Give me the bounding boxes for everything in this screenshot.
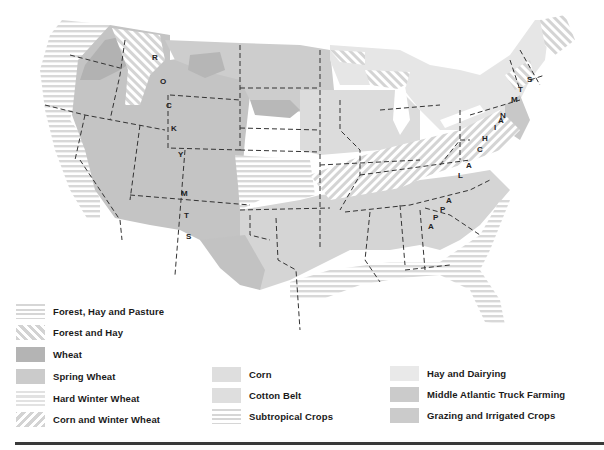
legend-label: Corn and Winter Wheat [53,414,160,425]
svg-text:A: A [466,161,472,170]
solid-light-swatch-icon [212,367,241,382]
legend-item-spring-wheat: Spring Wheat [16,368,115,384]
diagonal-lines-swatch-icon [16,412,45,427]
horizontal-lines-swatch-icon [16,391,45,406]
legend-item-grazing-irrigated: Grazing and Irrigated Crops [390,407,555,423]
svg-text:K: K [171,124,177,133]
legend-label: Wheat [53,349,82,360]
svg-text:I: I [494,123,496,132]
svg-text:C: C [166,101,172,110]
legend-label: Hay and Dairying [427,368,506,379]
svg-text:P: P [433,213,439,222]
legend-item-hard-winter-wheat: Hard Winter Wheat [16,390,140,406]
legend-label: Hard Winter Wheat [53,393,140,404]
legend-item-truck-farming: Middle Atlantic Truck Farming [390,386,565,402]
region-wheat-dakota [250,100,300,118]
svg-text:Y: Y [178,150,184,159]
legend-item-corn-winter-wheat: Corn and Winter Wheat [16,411,160,427]
legend-label: Corn [249,369,272,380]
svg-text:O: O [160,77,166,86]
legend-label: Middle Atlantic Truck Farming [427,389,565,400]
svg-text:S: S [527,75,533,84]
legend-item-hay-dairying: Hay and Dairying [390,365,506,381]
svg-text:A: A [446,196,452,205]
solid-very-light-swatch-icon [390,366,419,381]
legend-label: Forest, Hay and Pasture [53,306,164,317]
legend-label: Spring Wheat [53,371,115,382]
legend-item-corn: Corn [212,366,272,382]
svg-text:R: R [152,53,158,62]
svg-text:N: N [500,111,506,120]
svg-text:H: H [482,134,488,143]
svg-text:T: T [518,85,523,94]
solid-mid-swatch-icon [390,408,419,423]
legend-label: Grazing and Irrigated Crops [427,410,555,421]
us-agriculture-map: R O C K Y M T S A P P A L A C H I A N M … [0,0,604,330]
bottom-rule-divider [15,442,604,445]
legend-item-subtropical-crops: Subtropical Crops [212,408,333,424]
legend-label: Cotton Belt [249,390,301,401]
legend-label: Subtropical Crops [249,411,333,422]
solid-mid-swatch-icon [390,387,419,402]
svg-text:S: S [186,232,192,241]
solid-light-swatch-icon [212,388,241,403]
diagonal-lines-swatch-icon [16,325,45,340]
svg-text:A: A [428,222,434,231]
svg-text:P: P [440,205,446,214]
horizontal-lines-swatch-icon [16,304,45,319]
legend-item-cotton-belt: Cotton Belt [212,387,301,403]
horizontal-lines-swatch-icon [212,409,241,424]
svg-text:M: M [511,95,518,104]
legend-item-forest-hay: Forest and Hay [16,324,123,340]
legend-item-wheat: Wheat [16,346,82,362]
svg-text:T: T [184,211,189,220]
legend-label: Forest and Hay [53,327,123,338]
solid-dark-swatch-icon [16,347,45,362]
svg-text:M: M [181,189,188,198]
svg-text:C: C [477,145,483,154]
solid-mid-swatch-icon [16,369,45,384]
svg-text:L: L [458,171,463,180]
legend-item-forest-hay-pasture: Forest, Hay and Pasture [16,303,164,319]
